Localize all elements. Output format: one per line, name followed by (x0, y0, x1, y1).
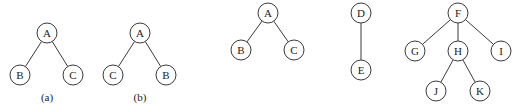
node-B: B (10, 65, 30, 85)
node-label: J (434, 85, 439, 97)
node-label: D (357, 7, 365, 19)
node-C: C (284, 40, 304, 60)
captions-layer: (a)(b) (41, 91, 147, 104)
node-label: A (264, 7, 272, 19)
edge-A-C (52, 42, 67, 67)
node-C: C (63, 65, 83, 85)
node-K: K (470, 81, 490, 101)
edge-A-B (25, 41, 41, 66)
edge-A-C (118, 41, 134, 66)
node-label: C (290, 44, 297, 56)
edge-F-I (465, 20, 493, 45)
node-A: A (258, 3, 278, 23)
node-I: I (491, 41, 511, 61)
node-label: I (499, 45, 503, 57)
node-A: A (37, 23, 57, 43)
node-label: A (43, 27, 51, 39)
tree-diagram: ABCACBABCDEFGHIJK (a)(b) (0, 0, 518, 111)
node-label: B (162, 69, 169, 81)
node-label: H (454, 45, 462, 57)
node-D: D (351, 3, 371, 23)
node-label: F (455, 7, 461, 19)
node-F: F (448, 3, 468, 23)
node-label: B (16, 69, 23, 81)
node-G: G (405, 41, 425, 61)
node-label: B (237, 44, 244, 56)
node-E: E (351, 60, 371, 80)
edge-H-K (463, 60, 475, 82)
edge-H-J (441, 60, 453, 82)
caption-tree-b: (b) (134, 91, 147, 104)
node-label: C (109, 69, 116, 81)
edge-A-C (274, 21, 289, 42)
node-B: B (231, 40, 251, 60)
node-C: C (103, 65, 123, 85)
node-J: J (426, 81, 446, 101)
caption-tree-a: (a) (41, 91, 54, 104)
edge-A-B (145, 42, 160, 67)
tree-diagram-svg: ABCACBABCDEFGHIJK (a)(b) (0, 0, 518, 111)
node-label: A (136, 27, 144, 39)
node-label: C (69, 69, 76, 81)
node-label: E (358, 64, 365, 76)
node-label: K (476, 85, 484, 97)
node-B: B (156, 65, 176, 85)
node-A: A (130, 23, 150, 43)
node-H: H (448, 41, 468, 61)
edge-A-B (247, 21, 262, 42)
nodes-layer: ABCACBABCDEFGHIJK (10, 3, 511, 101)
node-label: G (411, 45, 419, 57)
edge-F-G (422, 20, 450, 45)
